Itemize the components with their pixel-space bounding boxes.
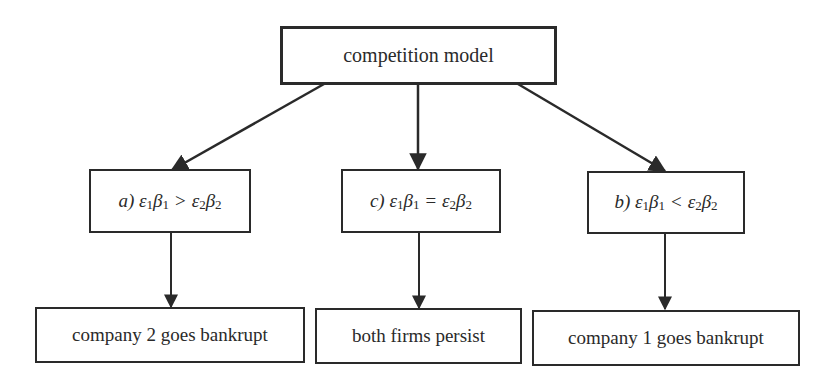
outcome-label: both firms persist	[352, 325, 485, 347]
condition-b-formula: b) ε1β1<ε2β2	[614, 191, 717, 214]
condition-node-a: a) ε1β1>ε2β2	[89, 169, 251, 233]
outcome-node-company-2-bankrupt: company 2 goes bankrupt	[35, 307, 305, 363]
edge-root-to-a	[172, 84, 324, 170]
competition-model-diagram: competition model a) ε1β1>ε2β2 c) ε1β1=ε…	[0, 0, 833, 385]
outcome-node-company-1-bankrupt: company 1 goes bankrupt	[532, 310, 800, 366]
outcome-label: company 2 goes bankrupt	[72, 324, 268, 346]
condition-a-formula: a) ε1β1>ε2β2	[118, 190, 221, 213]
condition-c-formula: c) ε1β1=ε2β2	[370, 190, 472, 213]
root-node: competition model	[280, 26, 557, 85]
condition-node-b: b) ε1β1<ε2β2	[587, 171, 745, 234]
root-node-label: competition model	[343, 44, 494, 67]
edge-root-to-b	[518, 84, 665, 171]
outcome-node-both-persist: both firms persist	[315, 308, 522, 364]
condition-node-c: c) ε1β1=ε2β2	[341, 169, 501, 233]
outcome-label: company 1 goes bankrupt	[568, 327, 764, 349]
